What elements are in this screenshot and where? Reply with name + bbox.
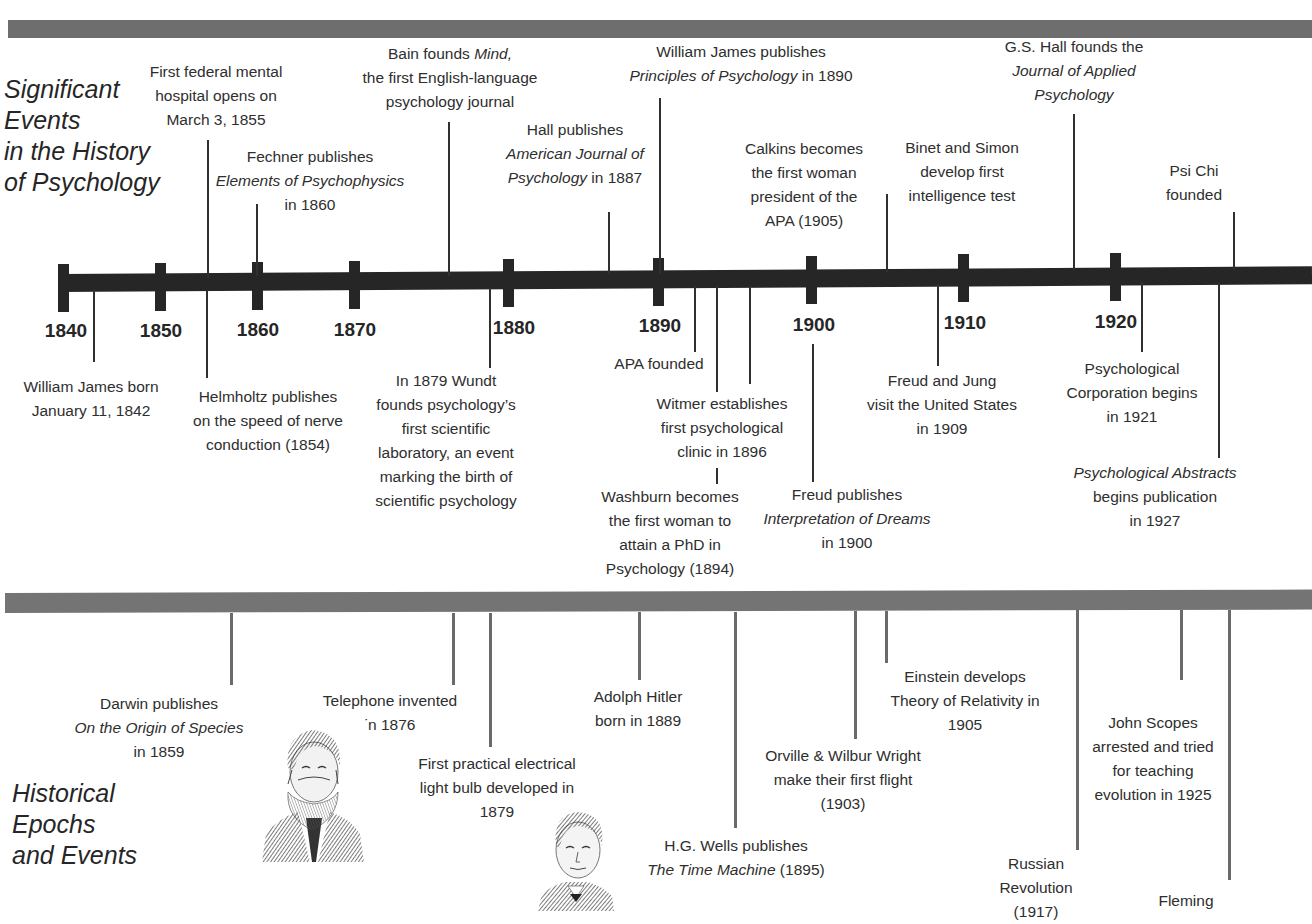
event-russian-revolution: RussianRevolution(1917) [999, 852, 1072, 924]
event-freud-dreams: Freud publishesInterpretation of Dreamsi… [763, 483, 930, 555]
tick-1870 [349, 261, 360, 309]
connector-line [1233, 212, 1235, 270]
event-hall-ajp: Hall publishesAmerican Journal ofPsychol… [506, 118, 644, 190]
tick-1920 [1110, 253, 1121, 301]
tick-1840 [58, 264, 69, 312]
connector-line [937, 284, 939, 366]
psychology-section-title: Significant Events in the History of Psy… [4, 74, 160, 198]
connector-line [608, 212, 610, 274]
event-time-machine: H.G. Wells publishesThe Time Machine (18… [647, 834, 824, 882]
connector-line [1228, 610, 1231, 880]
year-label-1870: 1870 [334, 319, 376, 341]
connector-line [716, 468, 718, 484]
event-psych-corporation: PsychologicalCorporation beginsin 1921 [1067, 357, 1198, 429]
timeline-axis [60, 266, 1312, 292]
connector-line [694, 286, 696, 352]
connector-line [749, 286, 751, 384]
connector-line [1218, 282, 1220, 458]
year-label-1840: 1840 [45, 320, 87, 342]
event-binet-simon: Binet and Simondevelop firstintelligence… [905, 136, 1019, 208]
event-wundt-lab: In 1879 Wundtfounds psychology’sfirst sc… [375, 369, 516, 513]
tick-1880 [503, 259, 514, 307]
event-helmholtz: Helmholtz publisheson the speed of nerve… [193, 385, 343, 457]
connector-line [206, 290, 208, 378]
connector-line [452, 613, 455, 685]
year-label-1910: 1910 [944, 312, 986, 334]
connector-line [886, 194, 888, 272]
connector-line [885, 611, 888, 663]
event-fleming: Fleming [1158, 889, 1213, 913]
connector-line [1141, 282, 1143, 352]
event-darwin-origin: Darwin publishesOn the Origin of Species… [75, 692, 244, 764]
year-label-1860: 1860 [237, 319, 279, 341]
event-james-principles: William James publishesPrinciples of Psy… [629, 40, 852, 88]
event-hitler-born: Adolph Hitlerborn in 1889 [594, 685, 683, 733]
event-psych-abstracts: Psychological Abstractsbegins publicatio… [1073, 461, 1236, 533]
connector-line [93, 290, 95, 362]
connector-line [1076, 610, 1079, 850]
event-james-born: William James bornJanuary 11, 1842 [23, 375, 158, 423]
event-calkins-apa: Calkins becomesthe first womanpresident … [745, 137, 863, 233]
connector-line [734, 612, 737, 828]
connector-line [489, 613, 492, 747]
connector-line [207, 140, 209, 278]
connector-line [489, 288, 491, 368]
event-scopes-trial: John Scopesarrested and triedfor teachin… [1092, 711, 1214, 807]
event-first-federal-hospital: First federal mentalhospital opens onMar… [150, 60, 283, 132]
event-bain-mind: Bain founds Mind,the first English-langu… [363, 42, 538, 114]
tick-1850 [155, 263, 166, 311]
connector-line [448, 122, 450, 276]
connector-line [854, 611, 857, 739]
tick-1900 [806, 256, 817, 304]
event-psi-chi: Psi Chifounded [1166, 159, 1222, 207]
historical-section-title: Historical Epochs and Events [12, 778, 137, 871]
event-washburn-phd: Washburn becomesthe first woman toattain… [601, 485, 738, 581]
year-label-1900: 1900 [793, 314, 835, 336]
event-wright-flight: Orville & Wilbur Wrightmake their first … [765, 744, 921, 816]
event-apa-founded: APA founded [614, 352, 703, 376]
connector-line [659, 98, 661, 274]
bearded-man-portrait [258, 722, 368, 862]
event-freud-jung-visit: Freud and Jungvisit the United Statesin … [867, 369, 1017, 441]
connector-line [1180, 610, 1183, 680]
year-label-1890: 1890 [639, 315, 681, 337]
elderly-man-portrait [536, 806, 616, 911]
event-einstein-relativity: Einstein developsTheory of Relativity in… [890, 665, 1039, 737]
connector-line [716, 286, 718, 392]
year-label-1850: 1850 [140, 320, 182, 342]
connector-line [638, 612, 641, 680]
event-hall-applied: G.S. Hall founds theJournal of AppliedPs… [1005, 35, 1144, 107]
connector-line [1073, 114, 1075, 270]
connector-line [230, 613, 233, 685]
bottom-band [5, 590, 1312, 613]
event-witmer-clinic: Witmer establishesfirst psychologicalcli… [657, 392, 788, 464]
event-fechner-elements: Fechner publishesElements of Psychophysi… [216, 145, 405, 217]
year-label-1920: 1920 [1095, 311, 1137, 333]
year-label-1880: 1880 [493, 317, 535, 339]
tick-1910 [958, 254, 969, 302]
connector-line [812, 344, 814, 482]
